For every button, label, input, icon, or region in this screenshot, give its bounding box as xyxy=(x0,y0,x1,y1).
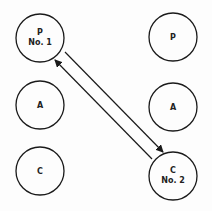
label-a-left: A xyxy=(37,101,44,110)
label-p1-line1: P xyxy=(37,28,43,37)
label-p-right: P xyxy=(170,33,176,42)
label-a-right: A xyxy=(170,103,177,112)
arrow-to-c2 xyxy=(65,52,163,152)
label-c2-line1: C xyxy=(170,166,176,175)
diagram-svg: P No. 1 A C P A C No. 2 xyxy=(0,0,212,211)
label-p1-line2: No. 1 xyxy=(28,38,52,47)
label-c2-line2: No. 2 xyxy=(161,176,185,185)
arrow-to-p1 xyxy=(55,60,152,159)
label-c-left: C xyxy=(37,167,43,176)
diagram-canvas: P No. 1 A C P A C No. 2 xyxy=(0,0,212,211)
